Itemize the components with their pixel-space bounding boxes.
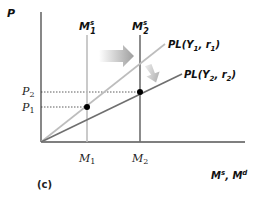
pl1-label: PL(Y1, r1) [168,39,220,53]
m1-tick-label: M1 [78,152,95,166]
equilibrium-point-2 [137,89,143,95]
m1-supply-label: Ms1 [79,19,96,36]
p1-label: P1 [21,101,35,115]
x-axis-label: Ms, Md [211,169,248,181]
pl2-label: PL(Y2, r2) [184,69,236,83]
money-market-diagram: P Ms, Md Ms1 Ms2 PL(Y1, r1) PL(Y2, r2) P… [0,0,255,206]
right-shift-arrow-icon [99,45,134,67]
equilibrium-point-1 [84,104,90,110]
pl2-line [41,74,182,142]
m2-tick-label: M2 [131,152,148,166]
m2-supply-label: Ms2 [132,19,149,36]
panel-label: (c) [37,179,52,190]
down-right-shift-arrow-icon [143,62,163,85]
p2-label: P2 [21,85,35,99]
y-axis-label: P [7,7,15,20]
